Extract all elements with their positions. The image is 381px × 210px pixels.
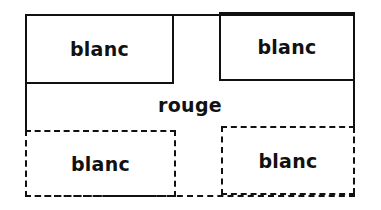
top-left-region: blanc <box>25 14 174 84</box>
bottom-right-region: blanc <box>221 126 355 195</box>
bottom-right-label: blanc <box>258 150 317 172</box>
top-left-label: blanc <box>70 38 129 60</box>
bottom-left-label: blanc <box>71 153 130 175</box>
top-right-region: blanc <box>219 12 355 81</box>
center-cross-label: rouge <box>25 94 355 116</box>
bottom-left-region: blanc <box>25 130 176 197</box>
top-right-label: blanc <box>257 36 316 58</box>
